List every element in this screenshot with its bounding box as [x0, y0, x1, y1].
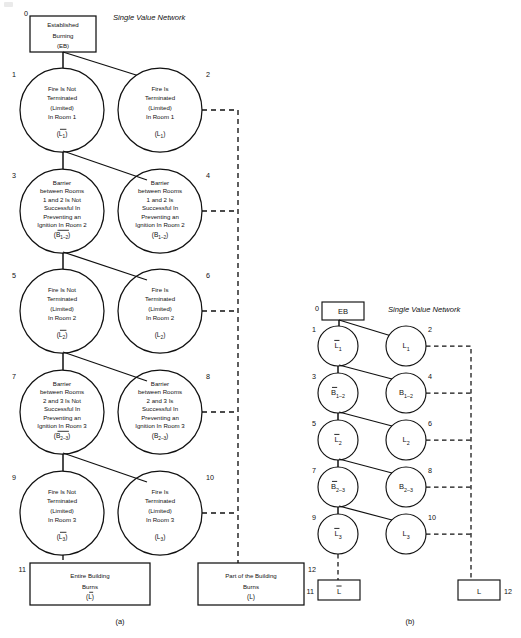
- panel-b-terminal-symbol-12-text: L: [477, 587, 481, 596]
- panel-a-terminal-number-12: 12: [308, 565, 316, 574]
- panel-a-terminal-symbol-11: (L): [86, 592, 94, 601]
- panel-a-terminal-line-11: Entire Building: [70, 572, 109, 579]
- panel-b-node-number-8: 8: [428, 466, 432, 475]
- panel-a-node-number-7: 7: [12, 372, 16, 381]
- panel-a-node-line-2: Terminated: [145, 94, 175, 101]
- panel-a-caption: (a): [115, 617, 124, 626]
- panel-a-node-line-1: Terminated: [47, 94, 77, 101]
- panel-a-node-line-5: Fire Is Not: [48, 286, 76, 293]
- panel-b-node-number-9: 9: [312, 513, 316, 522]
- panel-a-node-line-7: between Rooms: [40, 388, 84, 395]
- panel-a-network-title: Single Value Network: [113, 13, 187, 22]
- panel-b-node-number-2: 2: [428, 325, 432, 334]
- panel-a-node-line-2: Fire Is: [152, 85, 169, 92]
- panel-a-node-line-7: Preventing an: [43, 414, 81, 421]
- panel-a-node-line-1: (Limited): [50, 104, 74, 111]
- panel-a-node-line-7: Ignition In Room 3: [37, 422, 87, 429]
- panel-a-node-line-8: Successful In: [142, 405, 178, 412]
- panel-a-node-line-7: Successful In: [44, 405, 80, 412]
- panel-a-node-line-7: Barrier: [53, 380, 71, 387]
- panel-a-terminal-symbol-12: (L): [247, 593, 255, 601]
- panel-b-root-symbol: EB: [338, 307, 348, 316]
- panel-a-terminal-line-12: Part of the Building: [225, 572, 277, 579]
- panel-a-node-line-6: (Limited): [148, 305, 172, 312]
- panel-a-node-line-10: Fire Is: [152, 488, 169, 495]
- panel-a-node-line-3: Successful In: [44, 204, 80, 211]
- panel-a-node-line-5: Terminated: [47, 295, 77, 302]
- panel-a-node-line-3: Barrier: [53, 179, 71, 186]
- panel-a-terminal-line-12: Burns: [243, 583, 259, 590]
- panel-a-node-line-3: 1 and 2 Is Not: [43, 196, 81, 203]
- panel-a-node-line-8: Ignition In Room 3: [135, 422, 185, 429]
- panel-a-node-number-8: 8: [206, 372, 210, 381]
- panel-a-node-line-7: 2 and 3 Is Not: [43, 397, 81, 404]
- panel-a-node-line-8: Barrier: [151, 380, 169, 387]
- figure-canvas: Single Value Network0EstablishedBurning(…: [0, 0, 521, 638]
- panel-a-terminal-line-11: Burns: [82, 583, 98, 590]
- panel-a-node-line-3: Preventing an: [43, 213, 81, 220]
- panel-a-node-number-3: 3: [12, 171, 16, 180]
- panel-a-node-number-6: 6: [206, 271, 210, 280]
- panel-a-root-number: 0: [24, 9, 28, 18]
- panel-a-node-number-2: 2: [206, 70, 210, 79]
- panel-a-node-line-4: Ignition In Room 2: [135, 221, 185, 228]
- panel-a-node-line-3: between Rooms: [40, 187, 84, 194]
- panel-a-node-line-9: (Limited): [50, 507, 74, 514]
- panel-a-node-line-6: Terminated: [145, 295, 175, 302]
- panel-b-node-number-4: 4: [428, 372, 432, 381]
- panel-a-terminal-symbol-12-text: (L): [247, 593, 255, 601]
- panel-a-node-line-4: Successful In: [142, 204, 178, 211]
- panel-a-node-number-1: 1: [12, 70, 16, 79]
- panel-a-root-line: Established: [47, 21, 79, 28]
- panel-a-node-line-9: Fire Is Not: [48, 488, 76, 495]
- panel-a-node-number-5: 5: [12, 271, 16, 280]
- panel-a-node-number-9: 9: [12, 473, 16, 482]
- panel-a-terminal-number-11: 11: [19, 565, 26, 574]
- panel-a-node-line-10: (Limited): [148, 507, 172, 514]
- panel-a-root-line: (EB): [57, 42, 69, 49]
- panel-b-dashed-bus: [426, 346, 471, 580]
- panel-a-node-line-8: Preventing an: [141, 414, 179, 421]
- panel-a-node-line-9: Terminated: [47, 497, 77, 504]
- panel-a-node-number-4: 4: [206, 171, 210, 180]
- panel-b-terminal-symbol-11-text: L: [337, 587, 341, 596]
- panel-a-node-line-3: Ignition In Room 2: [37, 221, 87, 228]
- panel-a-node-line-1: In Room 1: [48, 113, 77, 120]
- panel-a-node-line-4: 1 and 2 Is: [147, 196, 174, 203]
- panel-b-node-number-10: 10: [428, 513, 436, 522]
- panel-b-caption: (b): [405, 617, 414, 626]
- panel-a-node-line-8: 2 and 3 Is: [147, 397, 174, 404]
- panel-a-root-line: Burning: [52, 32, 73, 39]
- panel-a-node-line-4: between Rooms: [138, 187, 182, 194]
- panel-b-network-title: Single Value Network: [388, 305, 462, 314]
- panel-b-node-number-7: 7: [312, 466, 316, 475]
- panel-a-node-line-5: In Room 2: [48, 314, 77, 321]
- panel-a-node-line-4: Preventing an: [141, 213, 179, 220]
- panel-b-root-number: 0: [315, 304, 319, 313]
- panel-a-node-line-10: Terminated: [145, 497, 175, 504]
- panel-a-node-line-4: Barrier: [151, 179, 169, 186]
- panel-b-terminal-number-11: 11: [307, 587, 314, 596]
- panel-a-node-line-6: Fire Is: [152, 286, 169, 293]
- panel-a-node-line-2: In Room 1: [146, 113, 175, 120]
- panel-a-node-line-8: between Rooms: [138, 388, 182, 395]
- panel-b-terminal-symbol-11: L: [336, 586, 341, 596]
- diagram-svg: Single Value Network0EstablishedBurning(…: [0, 0, 521, 638]
- panel-a-node-line-1: Fire Is Not: [48, 85, 76, 92]
- panel-b-node-number-1: 1: [312, 325, 316, 334]
- panel-b-node-number-5: 5: [312, 419, 316, 428]
- panel-a-terminal-symbol-11-text: (L): [86, 593, 94, 601]
- panel-a-node-line-10: In Room 3: [146, 516, 175, 523]
- panel-b-node-number-3: 3: [312, 372, 316, 381]
- panel-a-node-line-9: In Room 3: [48, 516, 77, 523]
- panel-a-node-line-5: (Limited): [50, 305, 74, 312]
- panel-b-node-number-6: 6: [428, 419, 432, 428]
- panel-a-node-number-10: 10: [206, 473, 214, 482]
- panel-a-node-line-2: (Limited): [148, 104, 172, 111]
- panel-b-terminal-number-12: 12: [504, 587, 512, 596]
- panel-b-terminal-symbol-12: L: [477, 587, 481, 596]
- panel-a-node-line-6: In Room 2: [146, 314, 175, 321]
